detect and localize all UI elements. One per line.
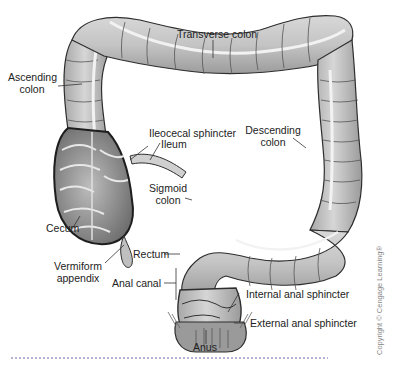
label-descending-colon-line1: Descending <box>245 124 300 136</box>
descending-colon-shape <box>310 40 362 232</box>
intestine-illustration <box>0 0 402 368</box>
large-intestine-diagram: Transverse colon Ascending colon Ileocec… <box>0 0 402 368</box>
label-ascending-colon-line1: Ascending <box>8 71 57 83</box>
label-transverse-colon: Transverse colon <box>177 28 257 40</box>
label-vermiform-appendix: Vermiform appendix <box>52 260 104 284</box>
label-ascending-colon-line2: colon <box>19 83 44 95</box>
copyright-notice: Copyright © Cengage Learning® <box>375 246 384 355</box>
sigmoid-colon-shape <box>182 230 348 296</box>
label-rectum: Rectum <box>133 248 169 260</box>
label-ileum: Ileum <box>161 138 187 150</box>
dotted-divider <box>10 357 328 359</box>
label-descending-colon: Descending colon <box>244 124 302 148</box>
label-vermiform-appendix-line1: Vermiform <box>54 260 102 272</box>
label-external-anal-sphincter: External anal sphincter <box>250 317 357 329</box>
ileum-shape <box>130 154 186 178</box>
label-sigmoid-colon-line1: Sigmoid <box>149 182 187 194</box>
label-vermiform-appendix-line2: appendix <box>57 272 100 284</box>
label-sigmoid-colon: Sigmoid colon <box>146 182 190 206</box>
label-cecum: Cecum <box>46 222 79 234</box>
label-anus: Anus <box>193 341 217 353</box>
label-descending-colon-line2: colon <box>260 136 285 148</box>
appendix-shape <box>121 236 133 267</box>
label-anal-canal: Anal canal <box>112 277 161 289</box>
label-ascending-colon: Ascending colon <box>8 71 56 95</box>
label-internal-anal-sphincter: Internal anal sphincter <box>246 288 349 300</box>
label-sigmoid-colon-line2: colon <box>155 194 180 206</box>
transverse-colon-shape <box>72 16 353 74</box>
